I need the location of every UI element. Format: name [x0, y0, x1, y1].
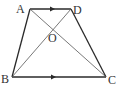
- parallel-arrow-AD-icon: [50, 7, 55, 12]
- label-O: O: [48, 31, 57, 45]
- side-DC: [71, 9, 106, 77]
- label-D: D: [73, 3, 82, 17]
- label-A: A: [16, 2, 25, 16]
- trapezoid-diagram: A D O B C: [0, 0, 120, 94]
- parallel-arrow-BC-icon: [51, 75, 56, 80]
- label-C: C: [108, 73, 116, 87]
- label-B: B: [1, 72, 9, 86]
